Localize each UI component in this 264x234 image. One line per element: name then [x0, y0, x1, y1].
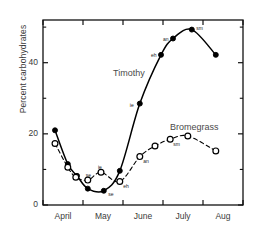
data-point: [213, 148, 219, 154]
point-label: se: [86, 172, 91, 178]
x-tick-label: Aug: [200, 211, 246, 221]
y-tick-label: 20: [16, 128, 38, 138]
point-label: eh: [123, 183, 129, 189]
data-point: [117, 168, 122, 173]
point-label: ie: [130, 102, 134, 108]
point-label: sm: [196, 25, 203, 31]
data-point: [185, 133, 191, 139]
series-lines: [55, 29, 216, 192]
data-point: [85, 186, 90, 191]
series-markers: [52, 27, 219, 193]
data-point: [137, 154, 143, 160]
data-point: [117, 179, 123, 185]
point-label: an: [163, 36, 169, 42]
data-point: [73, 174, 79, 180]
data-point: [213, 52, 218, 57]
series-label-bromegrass: Bromegrass: [170, 122, 219, 132]
series-label-timothy: Timothy: [113, 68, 145, 78]
y-tick-label: 0: [16, 199, 38, 209]
data-point: [85, 177, 91, 183]
data-point: [65, 164, 71, 170]
data-point: [101, 188, 106, 193]
point-label: ie: [98, 164, 102, 170]
data-point: [171, 36, 176, 41]
chart-figure: Percent carbohydrates 02040 AprilMayJune…: [0, 0, 264, 234]
data-point: [52, 141, 58, 147]
data-point: [159, 52, 164, 57]
point-label: se: [108, 191, 113, 197]
y-tick-label: 40: [16, 57, 38, 67]
data-point: [98, 169, 104, 175]
point-label: an: [143, 158, 149, 164]
plot-canvas: [0, 0, 264, 234]
data-point: [137, 101, 142, 106]
data-point: [189, 27, 194, 32]
data-point: [53, 128, 58, 133]
series-line-timothy: [55, 29, 216, 192]
data-point: [152, 143, 158, 149]
point-label: eh: [151, 52, 157, 58]
point-label: sm: [173, 141, 180, 147]
